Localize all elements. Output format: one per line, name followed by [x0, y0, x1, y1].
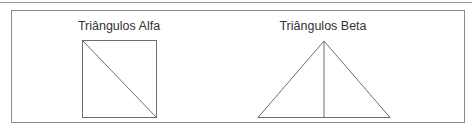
beta-triangle-figure	[258, 41, 390, 118]
diagram-canvas	[0, 0, 472, 130]
alfa-square-figure	[83, 41, 157, 118]
square-diagonal	[83, 41, 157, 118]
